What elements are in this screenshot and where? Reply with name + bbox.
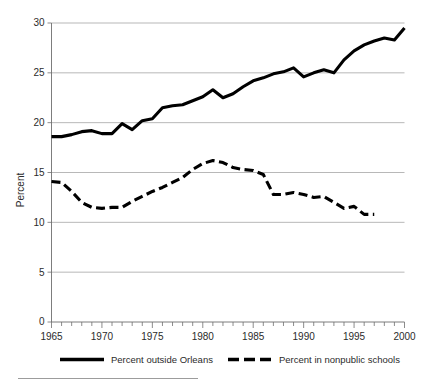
series-line-1 [52, 28, 405, 137]
y-axis-title-text: Percent [15, 173, 26, 208]
chart-legend: Percent outside OrleansPercent in nonpub… [60, 354, 400, 365]
x-tick-label: 1975 [141, 331, 164, 342]
y-tick-label: 10 [33, 217, 45, 228]
x-tick-label: 1995 [343, 331, 366, 342]
y-axis-title: Percent [15, 173, 26, 208]
y-axis: 051015202530 [33, 17, 51, 327]
x-tick-label: 2000 [393, 331, 416, 342]
y-tick-label: 25 [33, 67, 45, 78]
x-tick-label: 1965 [40, 331, 63, 342]
legend-label-1: Percent outside Orleans [111, 354, 213, 365]
x-tick-label: 1980 [192, 331, 215, 342]
series-line-2 [52, 161, 375, 215]
legend-label-2: Percent in nonpublic schools [279, 354, 400, 365]
chart-container: 051015202530 196519701975198019851990199… [0, 0, 437, 387]
data-series [52, 28, 405, 214]
y-tick-label: 0 [39, 316, 45, 327]
y-tick-label: 20 [33, 117, 45, 128]
x-axis: 19651970197519801985199019952000 [40, 322, 416, 342]
y-tick-label: 15 [33, 167, 45, 178]
x-tick-label: 1970 [91, 331, 114, 342]
y-tick-label: 5 [39, 267, 45, 278]
x-tick-label: 1985 [242, 331, 265, 342]
y-tick-label: 30 [33, 17, 45, 28]
line-chart: 051015202530 196519701975198019851990199… [0, 0, 437, 387]
gridlines [52, 23, 405, 272]
x-tick-label: 1990 [293, 331, 316, 342]
